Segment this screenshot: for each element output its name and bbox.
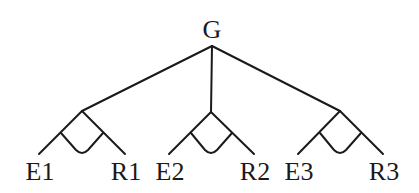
and-tree-diagram: G E1 R1 E2 R2 E3 R3 [0,0,419,193]
and-node-3: E3 R3 [285,111,400,186]
leaf-label-left: E3 [285,157,314,186]
and-node-2: E2 R2 [156,112,271,186]
root-edges [82,46,340,112]
and-arc [61,133,103,153]
and-node-1: E1 R1 [26,111,142,186]
leaf-label-right: R3 [369,157,399,186]
leaf-label-right: R2 [240,157,270,186]
root-node-label: G [203,15,222,44]
leaf-label-left: E1 [26,157,55,186]
leaf-label-right: R1 [111,157,141,186]
leaf-label-left: E2 [156,157,185,186]
and-arc [191,133,232,153]
and-arc [320,133,361,153]
